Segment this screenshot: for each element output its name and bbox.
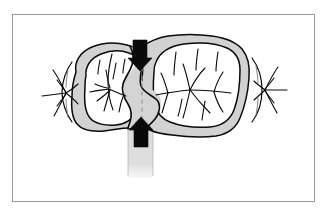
right-adjacent-fissures bbox=[254, 67, 287, 113]
figure-root bbox=[0, 0, 331, 216]
right-adjacent-tooth bbox=[252, 58, 287, 122]
dental-illustration bbox=[0, 0, 331, 216]
right-adjacent-faint-lines bbox=[256, 66, 258, 115]
right-adjacent-outline bbox=[252, 58, 262, 122]
